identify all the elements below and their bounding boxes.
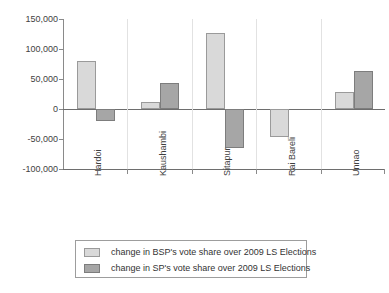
bar-chart: 150,000 100,000 50,000 0 -50,000 -100,00… bbox=[0, 0, 389, 293]
legend-item-sp: change in SP's vote share over 2009 LS E… bbox=[84, 261, 310, 275]
chart-legend: change in BSP's vote share over 2009 LS … bbox=[75, 240, 307, 278]
y-axis-label-150000: 150,000 bbox=[0, 15, 58, 24]
x-axis-label-unnao: Unnao bbox=[352, 149, 361, 176]
bar-unnao-sp bbox=[354, 71, 373, 109]
bar-hardoi-sp bbox=[96, 109, 115, 121]
x-axis-label-hardoi: Hardoi bbox=[94, 149, 103, 176]
x-axis-label-kaushambi: Kaushambi bbox=[159, 131, 168, 176]
y-axis-label-neg100000: -100,000 bbox=[0, 165, 58, 174]
bsp-swatch-icon bbox=[84, 248, 100, 257]
bar-unnao-bsp bbox=[335, 92, 354, 109]
legend-label-bsp: change in BSP's vote share over 2009 LS … bbox=[111, 247, 316, 257]
bar-group-hardoi bbox=[63, 19, 127, 170]
y-axis-label-50000: 50,000 bbox=[0, 75, 58, 84]
sp-swatch-icon bbox=[84, 264, 100, 273]
bar-kaushambi-bsp bbox=[141, 102, 160, 109]
x-axis-label-rai-bareli: Rai Bareli bbox=[288, 137, 297, 176]
bar-sitapur-bsp bbox=[206, 33, 225, 109]
y-axis-label-0: 0 bbox=[0, 105, 58, 114]
legend-item-bsp: change in BSP's vote share over 2009 LS … bbox=[84, 245, 316, 259]
bar-sitapur-sp bbox=[225, 109, 244, 148]
bar-hardoi-bsp bbox=[77, 61, 96, 109]
y-axis-label-neg50000: -50,000 bbox=[0, 135, 58, 144]
bar-kaushambi-sp bbox=[160, 83, 179, 109]
x-axis-label-sitapur: Sitapur bbox=[223, 147, 232, 176]
bar-group-unnao bbox=[321, 19, 385, 170]
legend-label-sp: change in SP's vote share over 2009 LS E… bbox=[111, 263, 310, 273]
y-axis-label-100000: 100,000 bbox=[0, 45, 58, 54]
bar-rai-bareli-bsp bbox=[270, 109, 289, 137]
